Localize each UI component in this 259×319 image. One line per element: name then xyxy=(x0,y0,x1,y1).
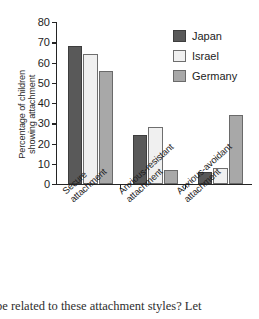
y-axis-title: Percentage of children showing attachmen… xyxy=(17,29,38,199)
legend-swatch-germany xyxy=(173,70,186,82)
bar-chart-figure: Percentage of children showing attachmen… xyxy=(0,0,259,297)
y-tick-label: 20 xyxy=(38,138,50,150)
y-tick-label: 80 xyxy=(38,16,50,28)
y-tick-mark xyxy=(52,123,56,124)
legend-label: Germany xyxy=(192,70,237,82)
y-tick-label: 0 xyxy=(44,178,50,190)
y-tick-label: 10 xyxy=(38,158,50,170)
page-caption: be related to these attachment styles? L… xyxy=(0,299,259,319)
y-tick-label: 30 xyxy=(38,117,50,129)
legend-item-germany: Germany xyxy=(173,66,237,86)
y-tick-mark xyxy=(52,42,56,43)
y-tick-mark xyxy=(52,164,56,165)
legend-item-israel: Israel xyxy=(173,46,237,66)
y-tick-mark xyxy=(52,63,56,64)
y-tick-label: 60 xyxy=(38,57,50,69)
caption-line: be related to these attachment styles? L… xyxy=(0,299,259,313)
y-tick-label: 50 xyxy=(38,77,50,89)
legend-label: Israel xyxy=(192,50,219,62)
y-tick-label: 40 xyxy=(38,97,50,109)
y-tick-mark xyxy=(52,22,56,23)
y-tick-label: 70 xyxy=(38,36,50,48)
legend-item-japan: Japan xyxy=(173,26,237,46)
y-tick-mark xyxy=(52,144,56,145)
y-tick-mark xyxy=(52,83,56,84)
y-tick-mark xyxy=(52,103,56,104)
bar-japan-group1 xyxy=(68,46,83,184)
legend-label: Japan xyxy=(192,30,222,42)
legend-swatch-israel xyxy=(173,50,186,62)
legend-swatch-japan xyxy=(173,30,186,42)
chart-legend: JapanIsraelGermany xyxy=(173,26,237,86)
x-axis-category-labels: Secure attachmentAnxious-resistant attac… xyxy=(56,186,256,278)
